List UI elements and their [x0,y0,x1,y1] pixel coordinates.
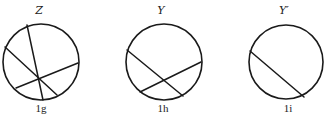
chord [127,50,183,96]
figure-1g: Z 1g [3,4,79,114]
chord [250,51,304,97]
figure-caption: 1g [36,102,48,114]
diagram-canvas: Z 1g Y 1h Y′ 1i [0,0,329,116]
circle-y [126,24,202,100]
figure-1h: Y 1h [126,4,202,114]
figure-title: Z [34,4,43,17]
circle-y-prime [249,25,323,99]
figure-caption: 1h [158,102,170,114]
figure-title: Y [157,4,166,17]
figure-caption: 1i [284,102,293,114]
figure-1i: Y′ 1i [249,4,323,114]
chord [27,25,43,100]
figure-title: Y′ [279,4,289,17]
